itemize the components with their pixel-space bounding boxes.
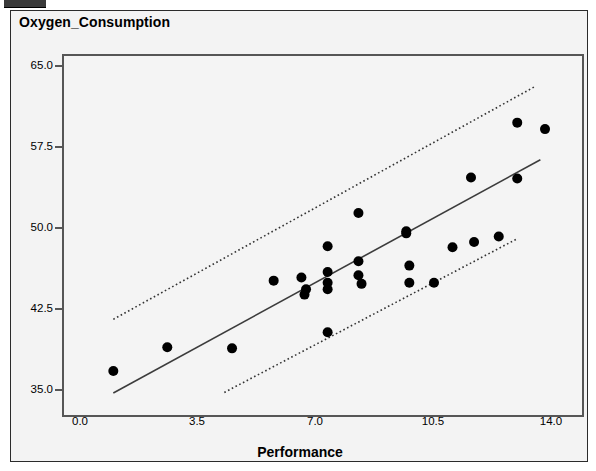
data-point [512,174,522,184]
data-point [323,267,333,277]
ytick-label-65: 65.0 [15,59,53,71]
data-point [108,366,118,376]
ytick-label-57-5: 57.5 [15,140,53,152]
data-point [466,172,476,182]
data-point [162,342,172,352]
ytick-label-42-5: 42.5 [15,302,53,314]
data-point [323,327,333,337]
data-point [301,284,311,294]
data-point [353,208,363,218]
data-point [353,256,363,266]
screenshot-root: Oxygen_Consumption 65.0 57.5 50.0 42.5 3… [0,0,596,471]
data-point [323,241,333,251]
window-chrome-fragment [4,0,46,8]
data-point [296,272,306,282]
data-point [448,242,458,252]
ytick-label-50: 50.0 [15,221,53,233]
data-point [401,228,411,238]
data-point [353,270,363,280]
graph-panel: Oxygen_Consumption 65.0 57.5 50.0 42.5 3… [10,10,588,462]
lower-band [224,239,517,393]
data-point [357,279,367,289]
ytick-mark-35 [55,389,62,391]
data-point [540,124,550,134]
page-title: Oxygen_Consumption [19,14,170,30]
data-point [227,343,237,353]
ytick-mark-65 [55,65,62,67]
x-axis-title: Performance [11,444,589,460]
plot-area [62,54,584,417]
ytick-mark-50 [55,227,62,229]
ytick-mark-42-5 [55,308,62,310]
data-point [469,237,479,247]
data-point [494,232,504,242]
ytick-mark-57-5 [55,146,62,148]
data-point [404,261,414,271]
data-point [512,118,522,128]
data-point [323,284,333,294]
data-point [269,276,279,286]
data-point [404,278,414,288]
ytick-label-35: 35.0 [15,383,53,395]
data-point [429,278,439,288]
scatter-plot-svg [64,56,582,415]
